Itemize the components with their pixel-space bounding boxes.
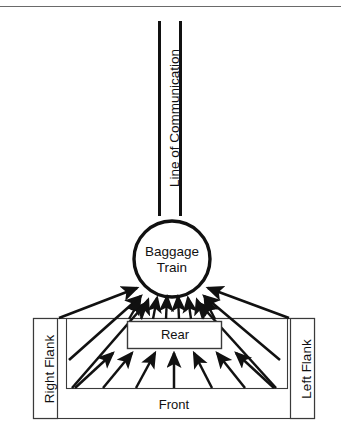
left-flank-label: Left Flank: [299, 339, 314, 399]
front-rank-arrows: [75, 353, 274, 388]
baggage-train-node: Baggage Train: [134, 221, 210, 297]
left-flank-node: Left Flank: [291, 319, 315, 419]
right-flank-node: Right Flank: [34, 319, 58, 419]
arrow-rear-4: [166, 297, 167, 319]
arrow-rear-3: [153, 298, 157, 319]
arrow-rear-5: [178, 297, 179, 319]
arrow-front-3: [136, 353, 155, 388]
right-flank-label: Right Flank: [42, 335, 57, 404]
arrow-left-flank-1: [208, 288, 289, 318]
baggage-train-label-line1: Baggage: [145, 244, 199, 259]
line-of-communication-label: Line of Communication: [167, 49, 182, 187]
arrow-right-flank-1: [59, 288, 137, 318]
diagram-canvas: Line of Communication Baggage Train Righ…: [0, 0, 341, 436]
arrow-front-5: [194, 353, 212, 388]
front-label: Front: [159, 397, 190, 412]
line-of-communication: Line of Communication: [160, 21, 182, 216]
diagram-figure: Line of Communication Baggage Train Righ…: [0, 0, 341, 436]
rear-node: Rear: [128, 322, 222, 349]
baggage-train-label-line2: Train: [157, 260, 187, 275]
arrow-rear-6: [188, 298, 191, 319]
rear-label: Rear: [161, 327, 190, 342]
